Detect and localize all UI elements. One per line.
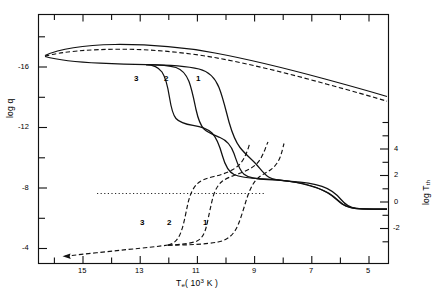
y-tick-label-left-2: -8 [22,183,29,192]
curve-dashed-base-tail [65,245,168,256]
x-tick-label-1: 13 [135,266,143,275]
curve-solid-lower-lip [45,57,146,65]
x-axis-label-open: ( 10 [185,278,200,288]
y-tick-label-left-0: -16 [18,62,29,71]
y-tick-label-left-3: -4 [22,243,29,252]
curve-tag-dashed-3: 3 [140,218,144,227]
y-axis-left-ticks [39,37,48,249]
curve-tag-solid-1: 1 [196,74,200,83]
y-tick-label-right-2: 0 [394,197,398,206]
x-tick-label-4: 7 [309,266,313,275]
y-axis-right-label-prefix: log T [421,185,431,205]
x-tick-label-3: 9 [252,266,256,275]
curve-tag-dashed-1: 1 [203,218,207,227]
figure-container: log q log Tth Te( 103 K ) -16 -12 -8 -4 … [0,0,437,299]
curve-dashed-3 [168,143,250,245]
y-axis-left-label: log q [5,99,15,118]
curve-tag-dashed-2: 2 [167,218,171,227]
curve-tag-solid-2: 2 [164,74,168,83]
y-tick-label-left-1: -12 [18,122,29,131]
curve-dashed-1 [168,144,284,246]
curve-dashed-upper-envelope [45,49,387,101]
curve-solid-upper-envelope [45,44,387,96]
x-axis-ticks [54,256,369,264]
x-axis-label-close: K ) [204,278,218,288]
x-tick-label-2: 11 [192,266,200,275]
plot-frame [39,15,389,264]
chart-plot-area [0,0,437,299]
y-tick-label-right-3: -2 [393,223,400,232]
y-tick-label-right-1: 2 [394,170,398,179]
arrowhead-left-icon [63,253,71,259]
y-tick-label-right-0: 4 [394,144,398,153]
x-axis-label: Te( 103 K ) [176,277,218,288]
y-axis-right-label-sub: th [424,180,431,186]
x-axis-top-ticks [54,15,369,22]
curve-tag-solid-3: 3 [134,74,138,83]
x-tick-label-0: 15 [78,266,86,275]
y-axis-right-label: log Tth [421,180,431,205]
x-tick-label-5: 5 [366,266,370,275]
y-axis-right-ticks [380,123,389,242]
